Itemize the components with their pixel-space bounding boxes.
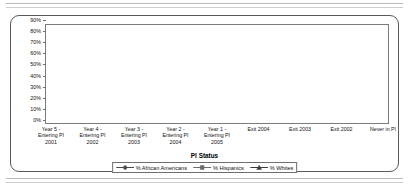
y-axis-tick-label: 10% [30,106,41,112]
top-divider-2 [6,7,403,8]
x-axis-tick-label: Year 1 -Entering PI2005 [197,126,237,145]
y-axis-tick-label: 80% [30,28,41,34]
x-axis-tick-label: Year 5 -Entering PI2001 [31,126,71,145]
x-axis-label-line: Exit 2004 [239,126,279,132]
x-axis-label-line: 2003 [114,139,154,145]
y-axis-tick-label: 50% [30,61,41,67]
y-axis-tick-label: 90% [30,17,41,23]
y-axis-tick-label: 20% [30,95,41,101]
x-axis-title: PI Status [11,152,398,159]
x-axis-tick-label: Year 3 -Entering PI2003 [114,126,154,145]
y-axis-tick-label: 40% [30,73,41,79]
x-axis-label-line: Never in PI [363,126,403,132]
legend-item[interactable]: % African Americans [116,164,187,171]
top-divider-1 [6,3,403,4]
plot-frame [45,24,389,124]
x-axis-tick-label: Never in PI [363,126,403,132]
x-axis-tick-label: Exit 2004 [239,126,279,132]
x-axis-label-line: Exit 2002 [322,126,362,132]
y-axis-tick-label: 70% [30,39,41,45]
x-axis-label-line: 2001 [31,139,71,145]
x-axis-tick-label: Year 2 -Entering PI2004 [156,126,196,145]
bottom-divider-1 [6,178,403,179]
y-axis-tick-label: 0% [33,117,41,123]
x-axis-label-line: 2002 [73,139,113,145]
legend-diamond-icon [116,164,134,171]
y-axis: 0%10%20%30%40%50%60%70%80%90% [11,20,43,128]
legend-item[interactable]: % Hispanics [193,164,244,171]
legend-label: % Hispanics [213,165,244,171]
x-axis-tick-label: Exit 2002 [322,126,362,132]
x-axis-tick-label: Exit 2003 [280,126,320,132]
y-axis-tick-label: 60% [30,50,41,56]
x-axis-label-line: 2004 [156,139,196,145]
x-axis-label-line: Exit 2003 [280,126,320,132]
x-axis-tick-label: Year 4 -Entering PI2002 [73,126,113,145]
legend-item[interactable]: % Whites [250,164,294,171]
legend-triangle-icon [250,164,268,171]
chart-page: 0%10%20%30%40%50%60%70%80%90% Year 5 -En… [0,0,409,192]
chart-legend: % African Americans% Hispanics% Whites [112,162,298,173]
y-axis-tick [43,20,46,21]
y-axis-tick-label: 30% [30,84,41,90]
legend-label: % Whites [270,165,294,171]
chart-container: 0%10%20%30%40%50%60%70%80%90% Year 5 -En… [10,15,399,172]
legend-label: % African Americans [136,165,187,171]
x-axis-label-line: 2005 [197,139,237,145]
legend-square-icon [193,164,211,171]
bottom-divider-2 [6,182,403,183]
plot-area [45,24,389,124]
